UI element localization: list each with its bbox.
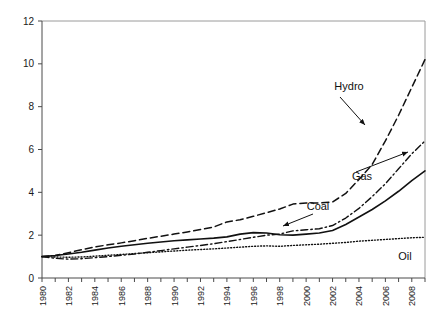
y-axis-tick-label: 8 <box>28 101 34 112</box>
y-axis-tick-label: 2 <box>28 230 34 241</box>
series-line-coal <box>42 171 425 257</box>
y-axis-tick-label: 0 <box>28 273 34 284</box>
x-axis-tick-label: 1998 <box>275 286 285 306</box>
x-axis-tick-label: 1980 <box>38 286 48 306</box>
series-label-oil: Oil <box>398 250 411 262</box>
x-axis-tick-label: 2006 <box>381 286 391 306</box>
x-axis-tick-label: 1996 <box>249 286 259 306</box>
y-axis-tick-label: 4 <box>28 187 34 198</box>
chart-container: 0246810121980198219841986198819901992199… <box>0 0 446 330</box>
x-axis-tick-label: 1988 <box>143 286 153 306</box>
x-axis-tick-label: 1984 <box>90 286 100 306</box>
y-axis-tick-label: 10 <box>23 58 35 69</box>
annotation-arrow-hydro <box>340 97 365 125</box>
y-axis-tick-label: 12 <box>23 16 35 27</box>
x-axis-tick-label: 1982 <box>64 286 74 306</box>
series-line-gas <box>42 141 425 259</box>
x-axis-tick-label: 1986 <box>117 286 127 306</box>
series-label-gas: Gas <box>352 170 373 182</box>
x-axis-tick-label: 2008 <box>407 286 417 306</box>
series-label-hydro: Hydro <box>334 80 363 92</box>
x-axis-tick-label: 1990 <box>170 286 180 306</box>
line-chart: 0246810121980198219841986198819901992199… <box>0 0 446 330</box>
x-axis-tick-label: 1994 <box>222 286 232 306</box>
annotation-arrow-coal <box>283 214 313 226</box>
series-label-coal: Coal <box>307 200 330 212</box>
y-axis-tick-label: 6 <box>28 144 34 155</box>
annotation-arrow-gas <box>356 152 408 172</box>
x-axis-tick-label: 2002 <box>328 286 338 306</box>
x-axis-tick-label: 2004 <box>354 286 364 306</box>
x-axis-tick-label: 1992 <box>196 286 206 306</box>
x-axis-tick-label: 2000 <box>302 286 312 306</box>
series-line-hydro <box>42 60 425 257</box>
